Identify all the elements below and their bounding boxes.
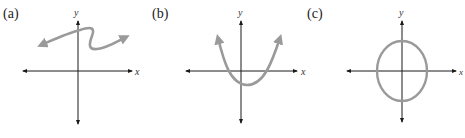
panel-b-y-label: y [237, 7, 243, 18]
panel-b-x-label: x [300, 66, 306, 77]
panel-a-x-label: x [134, 66, 140, 77]
panel-c-y-label: y [398, 7, 404, 18]
panel-a-y-label: y [73, 7, 79, 18]
panel-b-parabola [218, 38, 280, 85]
panel-a-s-curve [41, 28, 126, 49]
figure-three-graphs: (a) (b) (c) x y x y [0, 0, 465, 138]
panel-c-x-label: x [458, 67, 463, 77]
panel-b-graph: x y [186, 7, 306, 123]
graphs-canvas: x y x y x y [0, 0, 465, 138]
panel-a-graph: x y [23, 7, 140, 124]
panel-c-graph: x y [347, 7, 463, 122]
